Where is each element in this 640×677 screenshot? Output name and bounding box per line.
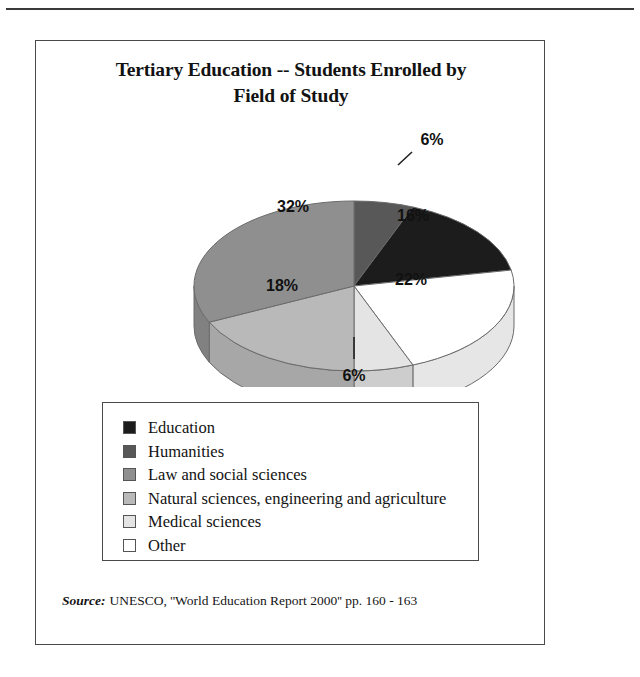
legend-item: Education <box>123 416 478 439</box>
pie-slice-value-label: 18% <box>266 277 298 294</box>
chart-title-line-1: Tertiary Education -- Students Enrolled … <box>76 57 506 83</box>
pie-slice-value-label: 22% <box>395 271 427 288</box>
legend-item: Humanities <box>123 440 478 463</box>
pie-leader-line <box>398 152 412 165</box>
source-label: Source: <box>62 593 106 608</box>
pie-slice-value-label: 32% <box>277 198 309 215</box>
legend-item-label: Law and social sciences <box>148 465 307 484</box>
legend-item: Law and social sciences <box>123 463 478 486</box>
legend-swatch-icon <box>123 539 136 552</box>
figure-frame: Tertiary Education -- Students Enrolled … <box>35 40 545 645</box>
pie-slice-value-label: 6% <box>420 131 443 148</box>
legend-swatch-icon <box>123 515 136 528</box>
legend-item-label: Other <box>148 536 186 555</box>
source-note: Source:UNESCO, ''World Education Report … <box>62 593 417 609</box>
legend-swatch-icon <box>123 492 136 505</box>
source-text: UNESCO, ''World Education Report 2000'' … <box>110 593 418 608</box>
legend-item: Medical sciences <box>123 510 478 533</box>
legend-item-label: Medical sciences <box>148 512 261 531</box>
legend-item-label: Education <box>148 418 215 437</box>
legend-item-label: Humanities <box>148 442 224 461</box>
legend-item: Natural sciences, engineering and agricu… <box>123 487 478 510</box>
legend-swatch-icon <box>123 445 136 458</box>
legend-item: Other <box>123 534 478 557</box>
legend: Education Humanities Law and social scie… <box>102 402 479 561</box>
pie-slice-value-label: 6% <box>342 367 365 384</box>
chart-title: Tertiary Education -- Students Enrolled … <box>76 57 506 109</box>
pie-chart-svg: 6%16%22%6%18%32% <box>36 119 544 387</box>
chart-title-line-2: Field of Study <box>76 83 506 109</box>
legend-swatch-icon <box>123 421 136 434</box>
page-top-rule <box>6 8 634 10</box>
pie-slice-value-label: 16% <box>397 207 429 224</box>
legend-item-label: Natural sciences, engineering and agricu… <box>148 489 446 508</box>
pie-chart: 6%16%22%6%18%32% <box>36 119 544 387</box>
legend-swatch-icon <box>123 468 136 481</box>
